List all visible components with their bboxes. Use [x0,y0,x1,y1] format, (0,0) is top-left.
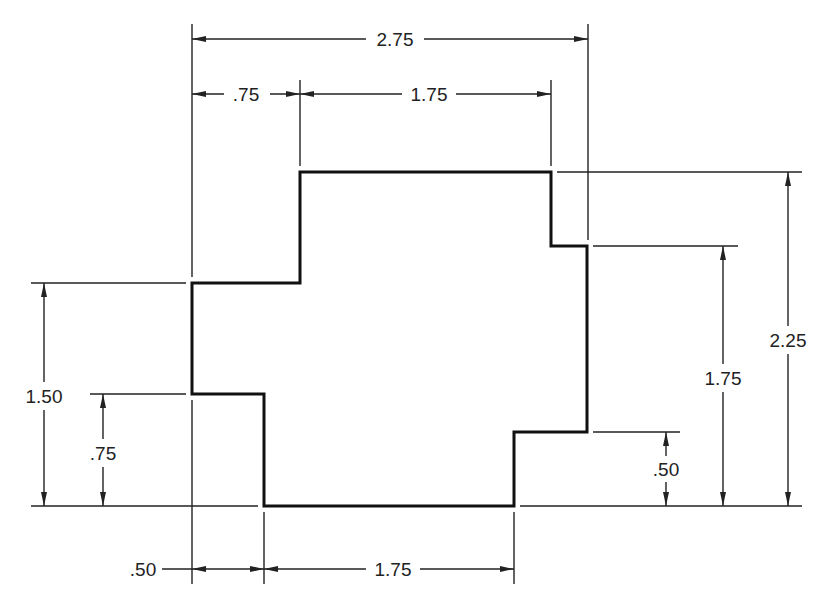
dim-label-1-50: 1.50 [26,386,63,407]
dim-label-bottom-50: .50 [130,559,156,580]
dim-right-middle: 1.75 [699,246,747,506]
dim-top-right-step: 1.75 [300,83,551,105]
technical-drawing: 2.75 .75 1.75 2.25 1.75 .50 [0,0,840,614]
dim-right-overall: 2.25 [764,172,812,506]
extension-lines [31,24,802,584]
dim-top-left-step: .75 [192,83,300,105]
dim-label-top-75: .75 [233,84,259,105]
dim-label-right-50: .50 [653,459,679,480]
dim-overall-top: 2.75 [192,28,588,50]
dim-bottom-left-step: .50 [130,559,264,580]
dim-bottom-width: 1.75 [264,558,514,580]
dim-label-top-1-75: 1.75 [411,84,448,105]
dim-label-2-75: 2.75 [377,29,414,50]
dim-right-step: .50 [648,432,684,506]
dim-label-2-25: 2.25 [770,330,807,351]
dim-left-overall: 1.50 [20,283,70,506]
dim-label-bottom-1-75: 1.75 [375,559,412,580]
dim-label-left-75: .75 [90,443,116,464]
part-outline [192,172,587,506]
dim-left-step: .75 [84,394,122,506]
dim-label-right-1-75: 1.75 [705,368,742,389]
